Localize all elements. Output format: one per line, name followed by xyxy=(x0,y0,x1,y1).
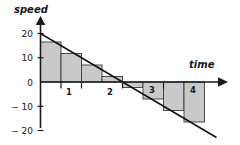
speed-time-bar-chart: speed time 20 10 0 − 10 − 20 xyxy=(0,0,240,145)
y-axis-title: speed xyxy=(14,4,49,15)
x-tick-label-1: 1 xyxy=(66,87,72,97)
x-axis-arrow xyxy=(218,77,228,87)
y-axis-arrow xyxy=(36,16,46,25)
chart-figure: speed time 20 10 0 − 10 − 20 xyxy=(0,0,240,145)
y-tick-label-neg10: − 10 xyxy=(11,102,33,112)
x-tick-label-3: 3 xyxy=(149,85,155,95)
y-tick-label-10: 10 xyxy=(22,53,34,63)
y-tick-label-20: 20 xyxy=(22,29,34,39)
bar-0 xyxy=(41,42,62,82)
y-tick-label-neg20: − 20 xyxy=(11,126,33,136)
bar-1 xyxy=(61,54,82,83)
bar-6 xyxy=(164,82,185,111)
bar-4 xyxy=(123,82,144,88)
x-tick-label-2: 2 xyxy=(107,87,113,97)
x-tick-label-4: 4 xyxy=(190,85,196,95)
bar-3 xyxy=(102,77,123,83)
y-tick-label-0: 0 xyxy=(27,78,33,88)
x-axis-title: time xyxy=(189,59,215,70)
